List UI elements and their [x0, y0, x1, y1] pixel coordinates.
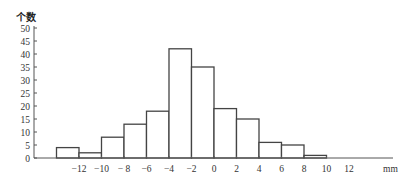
- y-tick-label: 5: [25, 141, 30, 151]
- x-tick-label: 0: [212, 164, 217, 174]
- y-tick-label: 40: [21, 50, 31, 60]
- y-ticks-group: 05101520253035404550: [21, 24, 38, 164]
- histogram-bar: [169, 49, 192, 158]
- x-tick-label: 6: [279, 164, 284, 174]
- histogram-bar: [259, 142, 282, 158]
- y-tick-label: 35: [21, 63, 31, 73]
- y-tick-label: 50: [21, 24, 31, 34]
- y-tick-label: 20: [21, 102, 31, 112]
- y-tick-label: 45: [21, 37, 31, 47]
- histogram-bar: [147, 111, 170, 158]
- y-axis-title: 个数: [15, 11, 37, 23]
- bars-group: [57, 49, 327, 158]
- x-tick-label: − 8: [118, 164, 131, 174]
- y-tick-label: 15: [21, 115, 31, 125]
- x-tick-label: 8: [302, 164, 307, 174]
- histogram-chart: 05101520253035404550 −12−10− 8−6−4−20246…: [0, 0, 407, 181]
- x-tick-label: 10: [322, 164, 332, 174]
- histogram-bar: [214, 109, 237, 158]
- histogram-bar: [282, 145, 305, 158]
- x-tick-label: −10: [94, 164, 109, 174]
- histogram-bar: [57, 148, 80, 158]
- y-tick-label: 30: [21, 76, 31, 86]
- x-tick-label: −2: [186, 164, 196, 174]
- x-tick-label: −12: [72, 164, 87, 174]
- histogram-bar: [79, 153, 102, 158]
- x-tick-label: 4: [257, 164, 262, 174]
- y-tick-label: 25: [21, 89, 31, 99]
- x-tick-label: −6: [141, 164, 151, 174]
- histogram-bar: [102, 137, 125, 158]
- histogram-bar: [237, 119, 260, 158]
- histogram-bar: [124, 124, 147, 158]
- histogram-bar: [192, 67, 215, 158]
- x-tick-label: 12: [344, 164, 354, 174]
- y-tick-label: 0: [25, 154, 30, 164]
- x-tick-label: −4: [164, 164, 174, 174]
- x-axis-unit-label: mm: [383, 164, 398, 174]
- x-tick-label: 2: [234, 164, 239, 174]
- x-ticks-group: −12−10− 8−6−4−2024681012: [72, 156, 354, 174]
- y-tick-label: 10: [21, 128, 31, 138]
